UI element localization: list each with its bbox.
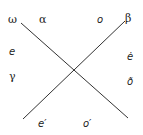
descending-line <box>21 23 128 118</box>
label-o-prime: o′ <box>83 118 91 129</box>
label-e-accent: ė <box>127 51 133 62</box>
label-e: e <box>9 46 15 57</box>
ascending-line <box>23 21 125 119</box>
label-omega: ω <box>8 14 17 25</box>
label-o: o <box>97 14 103 25</box>
label-beta: β <box>125 13 131 24</box>
label-gamma: γ <box>9 71 16 82</box>
label-o-accent: ð <box>127 76 133 87</box>
cross-diagram <box>0 0 143 135</box>
label-alpha: α <box>39 14 46 25</box>
label-e-prime: e′ <box>38 118 46 129</box>
